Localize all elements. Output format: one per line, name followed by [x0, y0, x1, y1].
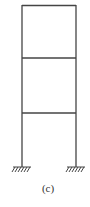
figure-caption: (c): [0, 182, 90, 194]
right-fixed-support-icon: [66, 167, 85, 172]
frame-diagram: [0, 0, 90, 207]
left-fixed-support-icon: [12, 167, 31, 172]
